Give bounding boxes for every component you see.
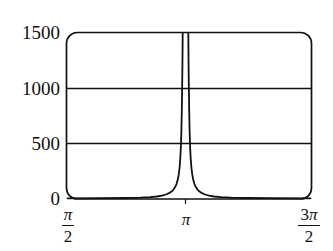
fraction-pi-over-2: π 2 [62,206,75,246]
ytick-label-500: 500 [12,134,60,153]
ytick-label-1000: 1000 [12,79,60,98]
fraction-numerator: 3π [298,206,319,226]
fraction-numerator: π [62,206,75,226]
fraction-numerator-symbol: π [309,205,318,224]
pi-symbol: π [182,210,191,229]
fraction-3pi-over-2: 3π 2 [298,206,319,246]
fraction-denominator: 2 [62,226,75,246]
ytick-label-1500: 1500 [12,23,60,42]
fraction-numerator-coefficient: 3 [300,205,309,224]
chart-figure: 1500 1000 500 0 π 2 π 3π 2 [0,0,333,251]
fraction-denominator: 2 [298,226,319,246]
xtick-label-3pi-over-2: 3π 2 [288,206,330,246]
xtick-label-pi-over-2: π 2 [52,206,84,246]
xtick-label-pi: π [170,210,202,229]
